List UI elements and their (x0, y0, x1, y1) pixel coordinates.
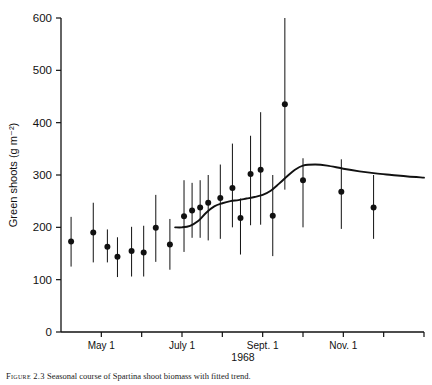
data-point (129, 248, 135, 254)
data-point (189, 208, 195, 214)
x-axis-ticks (101, 332, 424, 337)
data-point (153, 225, 159, 231)
y-axis-tick-label: 100 (33, 274, 52, 286)
error-bars-group (71, 18, 374, 277)
y-axis-tick-label: 500 (33, 64, 52, 76)
y-axis-tick-label: 300 (33, 169, 52, 181)
data-point (181, 213, 187, 219)
y-axis-title: Green shoots (g m⁻²) (7, 123, 19, 227)
data-point (248, 171, 254, 177)
data-point (371, 204, 377, 210)
data-points-group (68, 101, 377, 259)
fitted-trend-line (175, 165, 424, 228)
data-point (338, 189, 344, 195)
chart-figure: 0100200300400500600 May 1July 1Sept. 1No… (0, 0, 432, 385)
data-point (282, 101, 288, 107)
x-axis-tick-labels: May 1July 1Sept. 1Nov. 1 (88, 340, 358, 351)
y-axis-tick-labels: 0100200300400500600 (33, 12, 52, 338)
data-point (141, 249, 147, 255)
data-point (229, 185, 235, 191)
data-point (300, 177, 306, 183)
green-shoots-scatter-chart: 0100200300400500600 May 1July 1Sept. 1No… (0, 0, 432, 385)
figure-number: Figure 2.3 (6, 371, 45, 381)
x-axis-tick-label: Sept. 1 (247, 340, 279, 351)
data-point (90, 230, 96, 236)
y-axis-tick-label: 200 (33, 221, 52, 233)
data-point (270, 213, 276, 219)
data-point (205, 200, 211, 206)
y-axis-tick-label: 0 (46, 326, 52, 338)
x-axis-tick-label: Nov. 1 (329, 340, 358, 351)
y-axis-tick-label: 400 (33, 117, 52, 129)
data-point (104, 244, 110, 250)
data-point (167, 242, 173, 248)
data-point (217, 195, 223, 201)
data-point (197, 204, 203, 210)
data-point (258, 167, 264, 173)
data-point (237, 215, 243, 221)
y-axis-ticks (56, 18, 61, 332)
x-axis-tick-label: July 1 (169, 340, 196, 351)
figure-caption: Figure 2.3 Seasonal course of Spartina s… (6, 371, 430, 381)
data-point (114, 254, 120, 260)
data-point (68, 238, 74, 244)
x-axis-tick-label: May 1 (88, 340, 116, 351)
figure-caption-text: Seasonal course of Spartina shoot biomas… (47, 371, 251, 381)
y-axis-tick-label: 600 (33, 12, 52, 24)
x-axis-title: 1968 (231, 351, 255, 363)
